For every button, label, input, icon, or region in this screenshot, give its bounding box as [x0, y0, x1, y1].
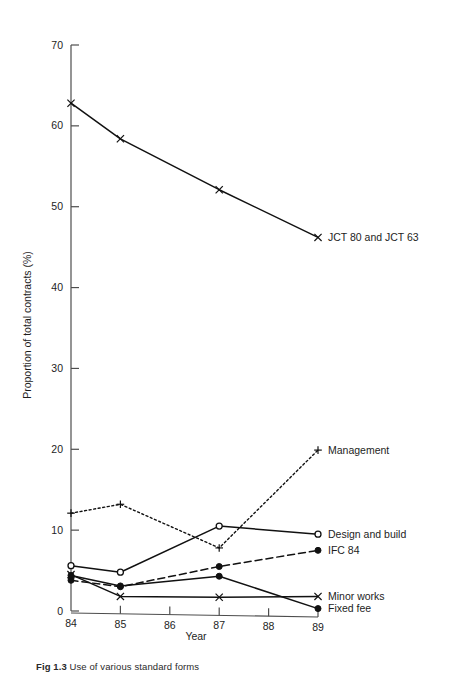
x-axis-line [71, 613, 318, 617]
marker-open-circle [315, 531, 321, 537]
series-line-5 [71, 575, 318, 608]
series-label-0: JCT 80 and JCT 63 [328, 231, 419, 243]
x-tick-label: 85 [115, 618, 127, 630]
y-tick-label: 40 [51, 281, 63, 293]
y-axis-title: Proportion of total contracts (%) [21, 251, 33, 399]
x-tick-label: 84 [65, 617, 77, 629]
series-line-1 [71, 450, 318, 548]
marker-open-circle [117, 569, 123, 575]
y-axis-tick-labels: 010203040506070 [51, 39, 63, 617]
series-line-3 [71, 550, 318, 586]
series-label-3: IFC 84 [328, 544, 360, 556]
y-tick-label: 30 [51, 362, 63, 374]
series-line-0 [71, 103, 318, 237]
marker-filled-circle [68, 572, 74, 578]
series-line-2 [71, 526, 318, 572]
y-tick-label: 10 [51, 524, 63, 536]
series-label-5: Fixed fee [328, 602, 371, 614]
y-axis-ticks [71, 45, 79, 611]
marker-filled-circle [216, 573, 222, 579]
x-tick-label: 88 [263, 620, 275, 632]
series-labels: JCT 80 and JCT 63ManagementDesign and bu… [328, 231, 419, 614]
figure-container: 010203040506070 848586878889 JCT 80 and … [0, 0, 453, 676]
x-axis-title: Year [185, 630, 207, 642]
y-tick-label: 50 [51, 200, 63, 212]
marker-filled-circle [117, 583, 123, 589]
series-label-4: Minor works [328, 590, 385, 602]
y-tick-label: 20 [51, 443, 63, 455]
marker-open-circle [216, 523, 222, 529]
x-axis-ticks [120, 606, 318, 617]
marker-filled-circle [315, 547, 321, 553]
x-tick-label: 87 [213, 619, 225, 631]
caption-number: Fig 1.3 [36, 661, 67, 672]
line-chart: 010203040506070 848586878889 JCT 80 and … [0, 0, 453, 676]
series-label-1: Management [328, 444, 389, 456]
y-tick-label: 60 [51, 119, 63, 131]
series-lines [71, 103, 318, 608]
y-tick-label: 0 [57, 605, 63, 617]
x-tick-label: 89 [312, 621, 324, 633]
series-label-2: Design and build [328, 528, 406, 540]
caption-body: Use of various standard forms [70, 661, 200, 672]
marker-filled-circle [216, 564, 222, 570]
x-tick-label: 86 [164, 619, 176, 631]
marker-open-circle [68, 563, 74, 569]
figure-caption: Fig 1.3 Use of various standard forms [36, 661, 199, 672]
y-tick-label: 70 [51, 39, 63, 51]
marker-filled-circle [315, 606, 321, 612]
